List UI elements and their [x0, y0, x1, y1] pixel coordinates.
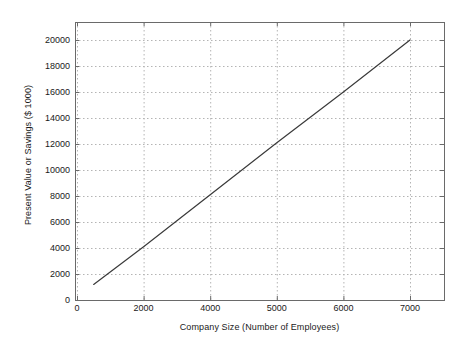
y-tick-label: 18000 [30, 61, 70, 71]
y-gridlines [75, 41, 444, 275]
x-tick-label: 0 [74, 303, 79, 313]
chart-figure: 0200040006000800010000120001400016000180… [0, 0, 469, 352]
y-tick-label: 6000 [30, 217, 70, 227]
y-tick-label: 4000 [30, 243, 70, 253]
series-line-present-value [94, 40, 410, 284]
x-tick-label: 2000 [134, 303, 154, 313]
y-tick-label: 14000 [30, 113, 70, 123]
y-tick-label: 16000 [30, 87, 70, 97]
y-tick-label: 8000 [30, 191, 70, 201]
y-tick-label: 12000 [30, 139, 70, 149]
y-tick-label: 20000 [30, 35, 70, 45]
y-tick-label: 0 [30, 295, 70, 305]
x-tick-label: 7000 [400, 303, 420, 313]
plot-frame [76, 23, 445, 301]
x-tick-label: 4000 [200, 303, 220, 313]
y-axis-title: Present Value or Savings ($ 1000) [23, 65, 33, 245]
x-axis-title: Company Size (Number of Employees) [75, 322, 444, 332]
x-tick-label: 6000 [333, 303, 353, 313]
chart-canvas [0, 0, 469, 352]
y-tick-label: 2000 [30, 269, 70, 279]
y-tick-label: 10000 [30, 165, 70, 175]
x-tick-label: 5000 [267, 303, 287, 313]
